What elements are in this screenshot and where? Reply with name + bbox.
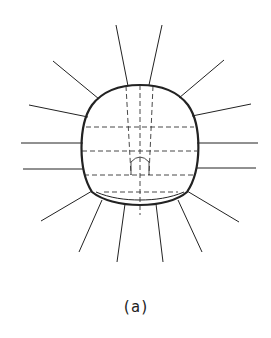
- tunnel-diagram: [0, 0, 271, 338]
- rock-bolts: [21, 25, 258, 262]
- figure-caption: (a): [0, 298, 271, 316]
